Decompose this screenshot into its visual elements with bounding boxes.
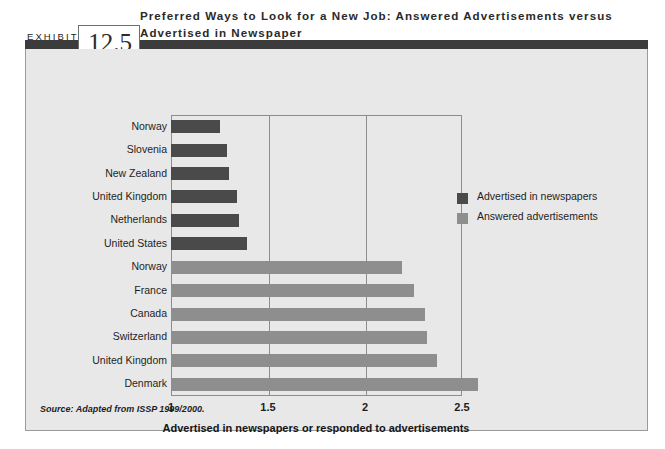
- x-axis-title: Advertised in newspapers or responded to…: [86, 422, 546, 434]
- legend-label-answered: Answered advertisements: [477, 210, 598, 222]
- x-axis-tick-labels: 11.522.5: [26, 49, 647, 430]
- x-axis-tick: 2: [345, 401, 385, 413]
- source-note: Source: Adapted from ISSP 1999/2000.: [40, 404, 204, 414]
- legend-label-advertised: Advertised in newspapers: [477, 190, 597, 202]
- legend-swatch-light-icon: [457, 213, 468, 224]
- chart-legend: Advertised in newspapers Answered advert…: [457, 190, 642, 230]
- x-axis-tick: 1.5: [248, 401, 288, 413]
- exhibit-panel: NorwaySloveniaNew ZealandUnited KingdomN…: [25, 49, 648, 431]
- x-axis-tick: 2.5: [442, 401, 482, 413]
- page-title: Preferred Ways to Look for a New Job: An…: [140, 8, 655, 41]
- legend-item-answered: Answered advertisements: [457, 210, 642, 230]
- legend-item-advertised: Advertised in newspapers: [457, 190, 642, 210]
- legend-swatch-dark-icon: [457, 193, 468, 204]
